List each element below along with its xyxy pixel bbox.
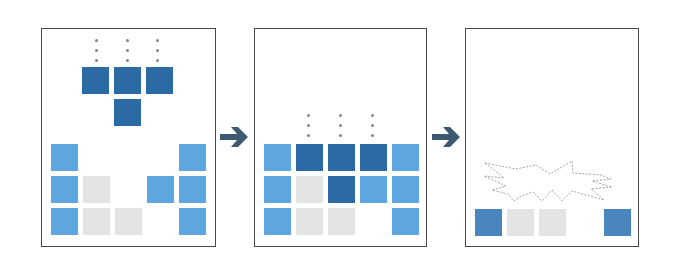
panel-step-1 — [41, 28, 216, 247]
motion-dot — [156, 59, 159, 62]
motion-dot — [95, 39, 98, 42]
settled-block — [392, 176, 419, 203]
landed-block — [296, 144, 323, 171]
settled-block — [392, 208, 419, 235]
settled-block — [179, 176, 206, 203]
motion-dot — [307, 134, 310, 137]
empty-cell — [296, 208, 323, 235]
right-arrow-icon — [220, 125, 250, 149]
settled-block — [179, 208, 206, 235]
motion-dot — [126, 49, 129, 52]
empty-cell — [115, 208, 142, 235]
motion-dot — [371, 114, 374, 117]
landed-block — [328, 176, 355, 203]
empty-cell — [296, 176, 323, 203]
settled-block — [264, 144, 291, 171]
remaining-block — [475, 209, 502, 236]
right-arrow-icon — [432, 125, 462, 149]
settled-block — [179, 144, 206, 171]
motion-dot — [95, 59, 98, 62]
empty-cell — [328, 208, 355, 235]
settled-block — [51, 208, 78, 235]
motion-dot — [126, 39, 129, 42]
falling-block — [82, 67, 109, 94]
empty-cell — [83, 176, 110, 203]
motion-dot — [339, 124, 342, 127]
falling-block — [114, 67, 141, 94]
settled-block — [264, 208, 291, 235]
settled-block — [51, 144, 78, 171]
settled-block — [147, 176, 174, 203]
panel-step-2 — [254, 28, 427, 247]
settled-block — [392, 144, 419, 171]
panel-step-3 — [465, 28, 639, 247]
motion-dot — [371, 134, 374, 137]
motion-dot — [307, 124, 310, 127]
motion-dot — [95, 49, 98, 52]
landed-block — [328, 144, 355, 171]
remaining-block — [604, 209, 631, 236]
settled-block — [360, 176, 387, 203]
motion-dot — [156, 49, 159, 52]
settled-block — [264, 176, 291, 203]
empty-cell — [507, 209, 534, 236]
motion-dot — [156, 39, 159, 42]
empty-cell — [539, 209, 566, 236]
motion-dot — [126, 59, 129, 62]
motion-dot — [371, 124, 374, 127]
falling-block — [114, 99, 141, 126]
motion-dot — [307, 114, 310, 117]
empty-cell — [83, 208, 110, 235]
landed-block — [360, 144, 387, 171]
motion-dot — [339, 114, 342, 117]
settled-block — [51, 176, 78, 203]
motion-dot — [339, 134, 342, 137]
falling-block — [146, 67, 173, 94]
